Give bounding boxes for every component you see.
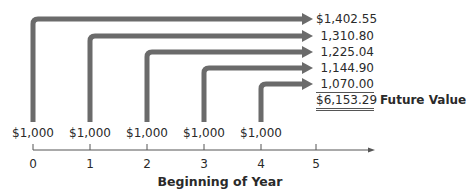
deposit-year-4: $1,000	[236, 126, 286, 140]
tick-label-3: 3	[194, 157, 214, 171]
axis-arrowhead-icon	[368, 148, 375, 153]
total-double-underline-1	[316, 108, 374, 109]
future-value-year-4: 1,070.00	[316, 77, 374, 91]
future-value-year-2: 1,225.04	[316, 45, 374, 59]
arrowhead-icon	[302, 30, 313, 42]
arrowhead-icon	[302, 13, 313, 25]
arrow-year-4	[261, 84, 304, 122]
tick-label-1: 1	[80, 157, 100, 171]
future-value-total: $6,153.29	[316, 93, 374, 107]
arrowhead-icon	[302, 78, 313, 90]
arrow-year-1	[90, 36, 304, 122]
deposit-year-3: $1,000	[179, 126, 229, 140]
arrowheads	[302, 13, 313, 90]
axis-title: Beginning of Year	[140, 174, 300, 189]
arrow-year-3	[204, 68, 304, 122]
future-value-year-3: 1,144.90	[316, 61, 374, 75]
arrowhead-icon	[302, 46, 313, 58]
compounding-arrows	[33, 19, 304, 122]
deposit-year-2: $1,000	[122, 126, 172, 140]
tick-label-2: 2	[137, 157, 157, 171]
tick-label-5: 5	[306, 157, 326, 171]
future-value-label: Future Value	[380, 93, 466, 107]
future-value-year-0: $1,402.55	[316, 12, 374, 26]
tick-label-0: 0	[23, 157, 43, 171]
total-double-underline-2	[316, 110, 374, 111]
time-axis	[33, 144, 370, 150]
future-value-year-1: 1,310.80	[316, 29, 374, 43]
arrowhead-icon	[302, 62, 313, 74]
deposit-year-1: $1,000	[65, 126, 115, 140]
deposit-year-0: $1,000	[8, 126, 58, 140]
arrow-year-2	[147, 52, 304, 122]
tick-label-4: 4	[251, 157, 271, 171]
